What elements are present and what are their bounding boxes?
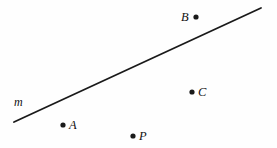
- line-label-m: m: [14, 96, 23, 108]
- point-label-a: A: [69, 119, 77, 132]
- point-dots-group: [60, 14, 198, 138]
- point-dot-a: [60, 122, 65, 127]
- point-label-p: P: [139, 130, 147, 143]
- point-dot-b: [193, 14, 198, 19]
- figure-svg: [0, 0, 277, 148]
- geometry-figure: m B C A P: [0, 0, 277, 148]
- point-dot-c: [189, 89, 194, 94]
- point-label-c: C: [198, 86, 206, 99]
- point-dot-p: [130, 133, 135, 138]
- point-label-b: B: [181, 11, 189, 24]
- line-m: [14, 8, 261, 122]
